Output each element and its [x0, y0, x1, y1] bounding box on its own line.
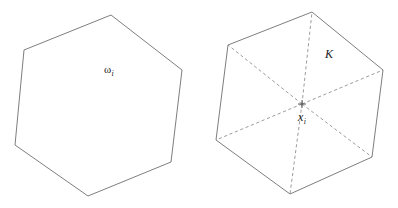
label-x-subscript: i	[304, 117, 306, 126]
label-x-i: xi	[298, 108, 306, 126]
label-k: K	[325, 45, 333, 61]
label-omega-i: ωi	[104, 60, 114, 78]
diagonal-to-lower-right-vertex	[302, 104, 372, 157]
diagonal-to-upper-left-vertex	[228, 45, 302, 104]
label-omega-base: ω	[104, 63, 111, 75]
diagram-svg	[0, 0, 398, 208]
diagonal-to-upper-right-vertex	[302, 70, 383, 104]
center-point-marker	[298, 100, 306, 108]
right-hexagon-outline	[216, 12, 383, 194]
label-k-base: K	[325, 47, 333, 61]
diagonal-to-lower-left-vertex	[216, 104, 302, 140]
right-hexagon-diagonals	[216, 12, 383, 194]
diagonal-to-top-vertex	[302, 12, 312, 104]
left-hexagon-outline	[15, 15, 182, 196]
label-x-base: x	[298, 110, 303, 124]
figure-canvas: ωi K xi	[0, 0, 398, 208]
label-omega-subscript: i	[112, 69, 114, 78]
